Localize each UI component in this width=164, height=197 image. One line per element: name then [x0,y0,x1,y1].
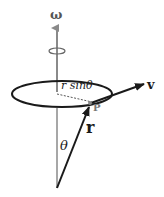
point-label: P [93,103,101,113]
diagram-svg [0,0,164,197]
angle-label: θ [60,139,68,152]
rotation-diagram: ω v P r θ r sinθ [0,0,164,197]
point-p-marker [88,101,92,105]
r-sin-theta-line [57,94,92,102]
velocity-label: v [147,78,155,91]
radius-vector-label: r [86,120,94,136]
velocity-vector [91,84,144,103]
omega-label: ω [50,8,62,21]
r-sin-theta-label: r sinθ [61,80,93,91]
